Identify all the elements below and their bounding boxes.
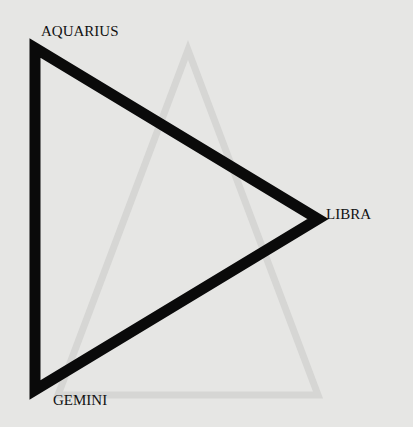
ghost-triangle bbox=[58, 50, 318, 395]
vertex-label-libra: LIBRA bbox=[326, 206, 371, 223]
vertex-label-aquarius: AQUARIUS bbox=[41, 23, 119, 40]
vertex-label-gemini: GEMINI bbox=[53, 392, 107, 409]
